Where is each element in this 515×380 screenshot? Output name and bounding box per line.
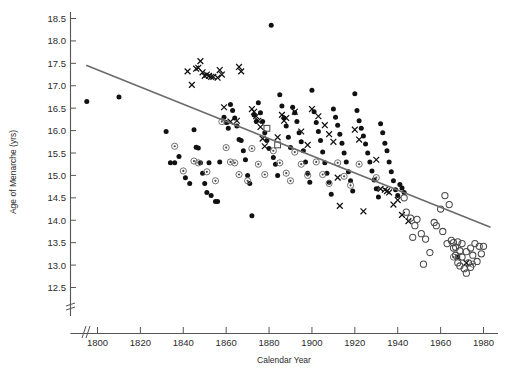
data-point-filled-circle xyxy=(192,127,197,132)
data-point-filled-circle xyxy=(226,126,231,131)
data-point-circled-dot-core xyxy=(343,175,345,177)
x-tick-label: 1960 xyxy=(430,337,451,348)
data-point-filled-circle xyxy=(275,173,280,178)
data-point-filled-circle xyxy=(243,157,248,162)
y-tick-label: 15.0 xyxy=(48,170,67,181)
data-point-cross xyxy=(361,208,367,214)
data-point-circled-dot-core xyxy=(251,147,253,149)
data-point-circled-dot-core xyxy=(289,180,291,182)
data-point-open-circle xyxy=(457,248,463,254)
data-point-filled-circle xyxy=(202,181,207,186)
data-point-open-circle xyxy=(410,234,416,240)
data-point-filled-circle xyxy=(354,108,359,113)
data-point-open-circle xyxy=(412,223,418,229)
y-tick-label: 18.5 xyxy=(48,13,67,24)
data-point-cross xyxy=(305,142,311,148)
data-point-cross xyxy=(262,143,268,149)
data-point-cross xyxy=(337,203,343,209)
data-point-open-circle xyxy=(407,215,413,221)
data-point-open-circle xyxy=(470,252,476,258)
data-point-filled-circle xyxy=(228,102,233,107)
data-point-filled-circle xyxy=(168,160,173,165)
data-point-filled-circle xyxy=(320,150,325,155)
data-point-filled-circle xyxy=(239,138,244,143)
data-point-circled-dot-core xyxy=(182,170,184,172)
data-point-filled-circle xyxy=(294,119,299,124)
data-point-filled-circle xyxy=(344,159,349,164)
data-point-filled-circle xyxy=(342,151,347,156)
data-point-filled-circle xyxy=(400,185,405,190)
data-point-filled-circle xyxy=(84,99,89,104)
data-point-cross xyxy=(330,139,336,145)
data-point-filled-circle xyxy=(307,180,312,185)
y-tick-label: 12.5 xyxy=(48,282,67,293)
data-point-cross xyxy=(326,131,332,137)
data-point-cross xyxy=(352,127,358,133)
data-point-circled-dot-core xyxy=(214,180,216,182)
data-point-circled-dot-core xyxy=(221,121,223,123)
data-point-filled-circle xyxy=(350,189,355,194)
data-point-filled-circle xyxy=(277,92,282,97)
data-point-circled-dot-core xyxy=(174,145,176,147)
data-point-filled-circle xyxy=(363,142,368,147)
data-point-cross xyxy=(373,157,379,163)
data-point-open-circle xyxy=(440,228,446,234)
series-filled-circle xyxy=(84,23,460,260)
data-point-circled-dot-core xyxy=(328,182,330,184)
data-point-filled-circle xyxy=(376,194,381,199)
x-tick-label: 1800 xyxy=(87,337,108,348)
data-point-filled-circle xyxy=(395,193,400,198)
data-point-circled-dot-core xyxy=(358,163,360,165)
data-point-circled-dot-core xyxy=(197,162,199,164)
data-point-cross xyxy=(315,113,321,119)
data-point-filled-circle xyxy=(241,148,246,153)
x-tick-label: 1940 xyxy=(387,337,408,348)
data-point-filled-circle xyxy=(329,192,334,197)
data-point-filled-circle xyxy=(164,129,169,134)
data-point-filled-circle xyxy=(316,129,321,134)
data-point-filled-circle xyxy=(318,138,323,143)
data-point-filled-circle xyxy=(172,160,177,165)
data-point-circled-dot-core xyxy=(337,162,339,164)
data-point-filled-circle xyxy=(367,159,372,164)
data-point-filled-circle xyxy=(357,118,362,123)
data-point-filled-circle xyxy=(385,148,390,153)
data-point-circled-dot-core xyxy=(272,150,274,152)
x-axis-title: Calendar Year xyxy=(257,355,311,365)
data-point-filled-circle xyxy=(207,160,212,165)
data-point-circled-dot-core xyxy=(234,162,236,164)
regression-trendline xyxy=(87,66,490,227)
data-point-filled-circle xyxy=(209,193,214,198)
data-point-circled-dot-core xyxy=(206,171,208,173)
data-point-cross xyxy=(221,104,227,110)
y-tick-label: 13.5 xyxy=(48,237,67,248)
y-tick-label: 13.0 xyxy=(48,260,67,271)
data-point-open-circle xyxy=(420,261,426,267)
data-point-circled-dot-core xyxy=(238,173,240,175)
data-point-circled-dot-core xyxy=(279,162,281,164)
y-tick-label: 15.5 xyxy=(48,148,67,159)
y-axis-title: Age of Menarche (yrs) xyxy=(8,130,18,214)
data-point-circled-dot-core xyxy=(300,163,302,165)
data-point-filled-circle xyxy=(116,94,121,99)
data-point-circled-dot-core xyxy=(225,147,227,149)
x-tick-label: 1980 xyxy=(473,337,494,348)
data-point-circled-dot-core xyxy=(307,174,309,176)
data-point-cross xyxy=(335,175,341,181)
data-point-cross xyxy=(275,134,281,140)
data-point-circled-dot-core xyxy=(322,173,324,175)
data-point-filled-circle xyxy=(284,124,289,129)
data-point-circled-dot-core xyxy=(193,160,195,162)
data-point-open-circle xyxy=(418,231,424,237)
menarche-age-scatter-chart: 12.513.013.514.014.515.015.516.016.517.0… xyxy=(0,0,515,380)
data-point-filled-circle xyxy=(286,135,291,140)
data-points-layer xyxy=(84,23,486,277)
chart-axes xyxy=(66,12,498,338)
data-point-cross xyxy=(356,137,362,143)
data-point-open-circle xyxy=(478,251,484,257)
data-point-filled-circle xyxy=(196,146,201,151)
data-point-cross xyxy=(185,69,191,75)
data-point-open-circle xyxy=(446,201,452,207)
data-point-filled-circle xyxy=(382,141,387,146)
data-point-open-circle xyxy=(442,192,448,198)
